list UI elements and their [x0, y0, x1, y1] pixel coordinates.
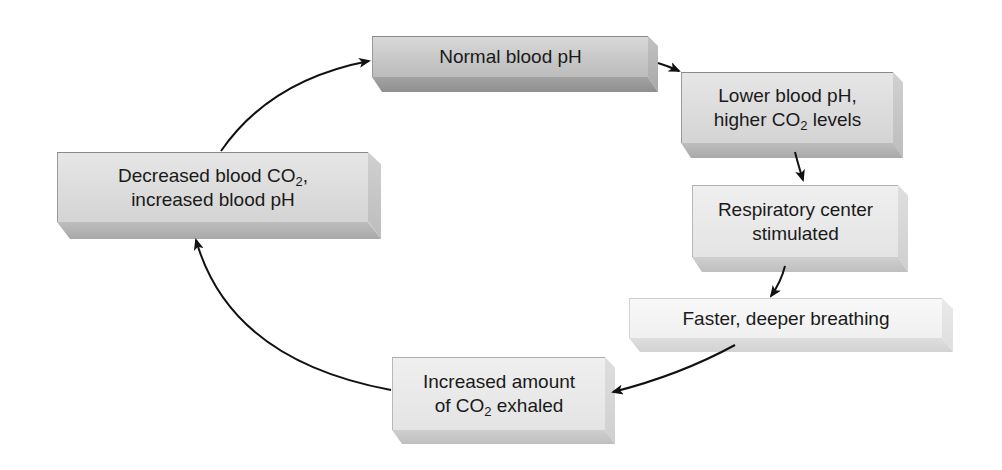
- arrow-decreased-to-normal: [221, 61, 369, 151]
- arrow-increased-to-decreased: [196, 240, 391, 390]
- cycle-arrows: [0, 0, 1002, 470]
- arrow-faster-to-increased: [613, 345, 735, 392]
- arrow-respiratory-to-faster: [771, 266, 785, 296]
- arrow-lower-to-respiratory: [795, 152, 803, 180]
- arrow-normal-to-lower: [658, 63, 679, 71]
